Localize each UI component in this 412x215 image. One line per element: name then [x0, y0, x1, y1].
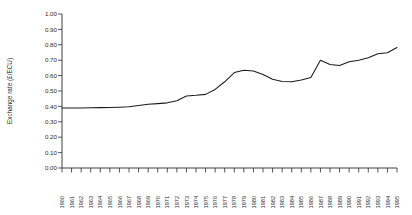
x-axis-tick-label: 1968 [136, 196, 142, 208]
x-axis-tick-label: 1962 [78, 196, 84, 208]
x-axis-tick-labels: 1960196119621963196419651966196719681969… [59, 196, 400, 208]
x-axis-tick-label: 1980 [251, 196, 257, 208]
x-axis-tick-label: 1964 [97, 196, 103, 208]
y-axis-tick-label: 0.90 [45, 26, 58, 33]
x-axis-tick-label: 1987 [318, 196, 324, 208]
y-axis-tick-label: 0.70 [45, 56, 58, 63]
x-axis-tick-label: 1978 [231, 196, 237, 208]
exchange-rate-line-chart: 1.000.900.800.700.600.500.400.300.200.10… [0, 0, 412, 215]
x-axis-tick-label: 1993 [375, 196, 381, 208]
x-axis-tick-label: 1963 [88, 196, 94, 208]
x-axis-tick-label: 1969 [145, 196, 151, 208]
y-axis-tick-label: 0.20 [45, 133, 58, 140]
x-axis-tick-label: 1970 [155, 196, 161, 208]
x-axis-tick-label: 1985 [298, 196, 304, 208]
x-axis-tick-label: 1984 [289, 196, 295, 208]
x-axis-tick-label: 1973 [184, 196, 190, 208]
x-axis-tick-label: 1979 [241, 196, 247, 208]
x-axis-tick-label: 1983 [279, 196, 285, 208]
x-axis-tick-label: 1992 [365, 196, 371, 208]
x-axis-tick-label: 1986 [308, 196, 314, 208]
x-axis-tick-label: 1975 [203, 196, 209, 208]
y-axis-tick-label: 0.60 [45, 72, 58, 79]
y-axis-tick-label: 0.80 [45, 41, 58, 48]
x-axis-tick-label: 1995 [394, 196, 400, 208]
x-axis-tick-label: 1960 [59, 196, 65, 208]
y-axis-tick-marks [58, 14, 62, 168]
x-axis-tick-label: 1977 [222, 196, 228, 208]
y-axis-tick-label: 1.00 [45, 10, 58, 17]
x-axis-tick-label: 1961 [69, 196, 75, 208]
y-axis-tick-labels: 1.000.900.800.700.600.500.400.300.200.10… [45, 10, 58, 171]
y-axis-tick-label: 0.50 [45, 87, 58, 94]
y-axis-tick-label: 0.10 [45, 149, 58, 156]
x-axis-tick-label: 1989 [337, 196, 343, 208]
x-axis-tick-label: 1994 [385, 196, 391, 208]
y-axis-title: Exchange rate (£/ECU) [6, 58, 14, 124]
y-axis-tick-label: 0.30 [45, 118, 58, 125]
x-axis-tick-label: 1971 [164, 196, 170, 208]
x-axis-tick-label: 1966 [117, 196, 123, 208]
x-axis-tick-label: 1981 [260, 196, 266, 208]
x-axis-tick-label: 1974 [193, 196, 199, 208]
y-axis-tick-label: 0.40 [45, 103, 58, 110]
x-axis-tick-label: 1991 [356, 196, 362, 208]
chart-canvas: 1.000.900.800.700.600.500.400.300.200.10… [0, 0, 412, 215]
x-axis-tick-label: 1967 [126, 196, 132, 208]
x-axis-tick-label: 1965 [107, 196, 113, 208]
x-axis-tick-label: 1988 [327, 196, 333, 208]
x-axis-tick-label: 1982 [270, 196, 276, 208]
exchange-rate-series-line [62, 48, 397, 108]
x-axis-tick-marks [62, 168, 397, 173]
x-axis-tick-label: 1990 [346, 196, 352, 208]
y-axis-tick-label: 0.00 [45, 164, 58, 171]
x-axis-tick-label: 1972 [174, 196, 180, 208]
x-axis-tick-label: 1976 [212, 196, 218, 208]
